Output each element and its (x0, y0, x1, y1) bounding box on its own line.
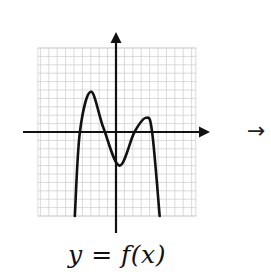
function-curve (75, 92, 160, 216)
x-axis-arrowhead (199, 127, 210, 138)
function-graph (0, 0, 271, 272)
right-arrow-icon: → (247, 118, 265, 143)
y-axis-arrowhead (111, 32, 122, 43)
function-caption: y = f(x) (0, 240, 234, 269)
